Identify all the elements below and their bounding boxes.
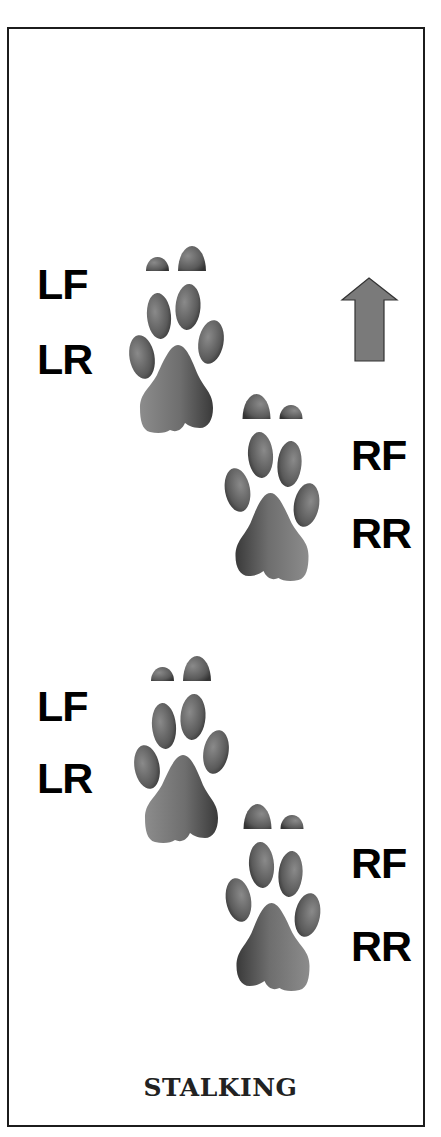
label-right-front: RF <box>351 434 406 477</box>
label-left-rear: LR <box>37 757 92 800</box>
paw-print-right-upper <box>221 394 322 581</box>
label-right-rear: RR <box>351 925 411 968</box>
diagram-caption: STALKING <box>0 1073 441 1102</box>
label-left-front: LF <box>37 263 88 306</box>
label-right-front: RF <box>351 842 406 885</box>
paw-print-right-lower <box>222 804 323 991</box>
paw-print-left-upper <box>126 246 227 433</box>
label-left-rear: LR <box>37 338 92 381</box>
label-right-rear: RR <box>351 512 411 555</box>
label-left-front: LF <box>37 685 88 728</box>
paw-print-left-lower <box>131 656 232 843</box>
up-arrow-icon <box>342 278 397 361</box>
